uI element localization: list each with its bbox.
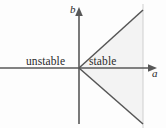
- b-axis-arrowhead: [75, 7, 83, 16]
- stability-diagram: unstable stable b a: [0, 0, 166, 128]
- region-label-stable: stable: [89, 56, 116, 68]
- b-axis-label: b: [70, 4, 76, 15]
- region-label-unstable: unstable: [26, 56, 65, 68]
- diagram-canvas: [0, 0, 166, 128]
- a-axis-label: a: [152, 68, 158, 79]
